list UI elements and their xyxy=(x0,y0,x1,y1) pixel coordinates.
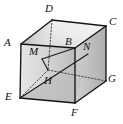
geometry-figure: D C A M B N H G E F xyxy=(0,0,123,124)
cube-diagram-svg xyxy=(0,0,123,124)
vertex-label-A: A xyxy=(4,37,11,48)
vertex-label-F: F xyxy=(71,107,78,118)
vertex-label-M: M xyxy=(29,46,38,57)
vertex-label-B: B xyxy=(65,36,72,47)
vertex-label-D: D xyxy=(45,3,53,14)
vertex-label-G: G xyxy=(108,73,116,84)
vertex-label-C: C xyxy=(109,16,116,27)
vertex-label-H: H xyxy=(44,75,52,86)
vertex-label-E: E xyxy=(5,91,12,102)
vertex-label-N: N xyxy=(83,41,90,52)
